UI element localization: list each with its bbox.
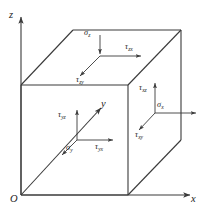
tau-zy-arrow: [80, 56, 100, 76]
tau-xz-label: τxz: [139, 84, 147, 92]
tau-zx-label: τzx: [125, 43, 133, 51]
tau-yx-label: τyx: [95, 143, 103, 151]
axis-y-label: y: [101, 99, 106, 110]
axis-x-label: x: [191, 194, 196, 205]
stress-group-top-face: [80, 35, 141, 76]
sigma-x-label: σx: [157, 101, 164, 109]
stress-group-right-face: [139, 83, 196, 130]
tau-zx-subscript: zx: [128, 46, 133, 52]
sigma-z-subscript: z: [88, 32, 90, 38]
sigma-x-subscript: x: [161, 104, 163, 110]
tau-zy-label: τzy: [76, 76, 84, 84]
tau-xy-arrow: [139, 113, 155, 130]
sigma-y-subscript: y: [70, 147, 72, 153]
sigma-z-label: σz: [84, 29, 90, 37]
cube-edges: [21, 30, 181, 195]
tau-yz-subscript: yz: [61, 114, 66, 120]
sigma-y-label: σy: [66, 144, 73, 152]
tau-xz-subscript: xz: [142, 87, 147, 93]
tau-xy-subscript: xy: [138, 134, 143, 140]
tau-yx-subscript: yx: [98, 146, 103, 152]
stress-element-figure: z x y O σz τzx τzy τyz τyx σy τxz σx τxy: [0, 0, 206, 213]
origin-label: O: [10, 194, 18, 205]
axis-z-label: z: [9, 10, 13, 21]
axis-y: [21, 108, 101, 195]
tau-yz-label: τyz: [58, 111, 66, 119]
tau-zy-subscript: zy: [79, 79, 84, 85]
tau-xy-label: τxy: [135, 131, 143, 139]
